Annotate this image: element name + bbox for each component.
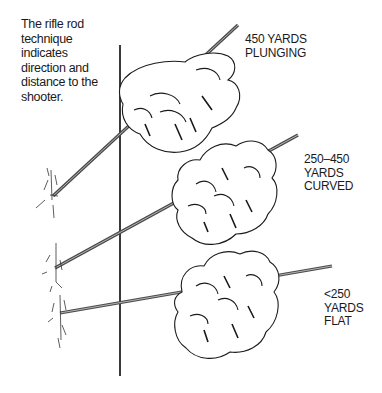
rifle-rod-diagram: The rifle rod technique indicates direct…: [0, 0, 382, 393]
bullet-hole-bottom: [48, 295, 66, 348]
hand-middle: [172, 141, 277, 244]
hand-bottom: [175, 251, 279, 358]
label-250-450-yards-curved: 250–450 YARDS CURVED: [304, 153, 353, 194]
label-under-250-yards-flat: <250 YARDS FLAT: [324, 288, 363, 329]
caption-text: The rifle rod technique indicates direct…: [21, 17, 121, 105]
hand-top: [119, 53, 239, 152]
label-450-yards-plunging: 450 YARDS PLUNGING: [245, 33, 307, 60]
